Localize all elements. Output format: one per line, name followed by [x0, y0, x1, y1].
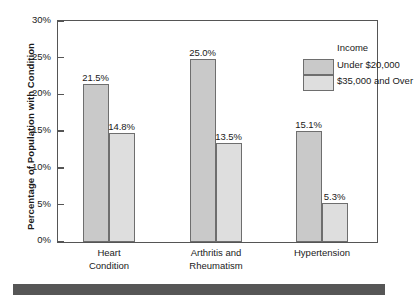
plot-inner: Income Under $20,000 $35,000 and Over 0%… [58, 21, 377, 242]
y-axis-tick-label: 10% [32, 161, 51, 172]
legend-title: Income [337, 42, 368, 53]
y-axis-tick-mark [57, 57, 64, 58]
y-axis-tick-label: 25% [32, 51, 51, 62]
y-axis-tick-label: 5% [37, 198, 51, 209]
bar-value-label: 21.5% [82, 72, 109, 83]
y-axis-tick-label: 20% [32, 87, 51, 98]
bar-value-label: 25.0% [189, 47, 216, 58]
bar-value-label: 15.1% [295, 119, 322, 130]
legend-label-under-20000: Under $20,000 [337, 59, 400, 70]
y-axis-tick-label: 15% [32, 124, 51, 135]
y-axis-tick-label: 30% [32, 14, 51, 25]
y-axis-tick-mark [57, 204, 64, 205]
bar: 21.5% [83, 84, 109, 242]
bar: 15.1% [296, 131, 322, 242]
x-axis-category-line: Hypertension [294, 247, 350, 260]
x-axis-category-label: Arthritis andRheumatism [189, 247, 242, 272]
x-axis-category-label: HeartCondition [89, 247, 129, 272]
y-axis-tick-mark [57, 130, 64, 131]
x-axis-category-label: Hypertension [294, 247, 350, 260]
legend-label-35000-and-over: $35,000 and Over [337, 75, 413, 86]
x-axis-category-line: Condition [89, 260, 129, 273]
y-axis-tick-mark [57, 167, 64, 168]
y-axis-tick-label: 0% [37, 234, 51, 245]
y-axis-tick-mark [57, 20, 64, 21]
bar: 5.3% [322, 203, 348, 242]
bottom-rule [13, 284, 385, 295]
x-axis-category-line: Rheumatism [189, 260, 242, 273]
bar: 25.0% [190, 59, 216, 243]
bar: 14.8% [109, 133, 135, 242]
y-axis-tick-mark [57, 241, 64, 242]
legend-swatch-under-20000 [303, 59, 334, 75]
plot-area: Income Under $20,000 $35,000 and Over 0%… [57, 20, 378, 243]
y-axis-tick-mark [57, 94, 64, 95]
bar: 13.5% [216, 143, 242, 242]
x-axis-category-line: Arthritis and [189, 247, 242, 260]
bar-value-label: 5.3% [324, 191, 346, 202]
bar-value-label: 13.5% [215, 131, 242, 142]
x-axis-category-line: Heart [89, 247, 129, 260]
legend-swatch-35000-and-over [303, 75, 334, 91]
bar-value-label: 14.8% [108, 121, 135, 132]
